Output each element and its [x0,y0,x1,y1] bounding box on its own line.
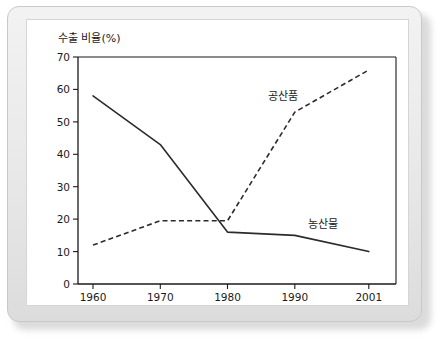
y-tick-label-20: 20 [57,213,70,225]
x-tick-label-1960: 1960 [80,291,107,303]
y-tick-label-30: 30 [57,181,70,193]
series-label-agricultural: 농산물 [308,218,338,231]
y-axis-ticks [73,57,78,284]
series-label-manufactured: 공산품 [268,90,298,103]
y-axis-title: 수출 비율(%) [58,32,121,45]
y-tick-label-40: 40 [57,148,70,160]
chart-svg: 수출 비율(%) 70 60 50 40 30 20 10 0 1960 197… [0,0,440,340]
x-tick-label-1980: 1980 [214,291,241,303]
y-tick-label-60: 60 [57,83,70,95]
y-tick-label-0: 0 [63,278,70,290]
y-tick-label-50: 50 [57,116,70,128]
y-tick-label-10: 10 [57,246,70,258]
screenshot-root: 수출 비율(%) 70 60 50 40 30 20 10 0 1960 197… [0,0,440,340]
y-tick-label-70: 70 [57,51,70,63]
line-chart: 수출 비율(%) 70 60 50 40 30 20 10 0 1960 197… [0,0,440,340]
x-axis-ticks [93,284,369,289]
x-tick-label-2001: 2001 [355,291,382,303]
x-tick-label-1990: 1990 [281,291,308,303]
x-tick-label-1970: 1970 [147,291,174,303]
